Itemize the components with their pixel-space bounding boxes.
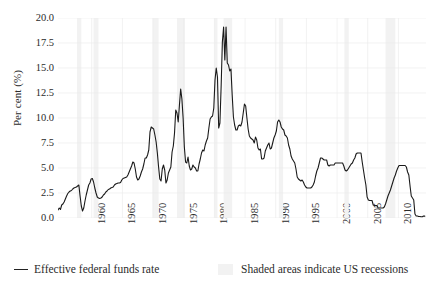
y-tick-label: 20.0 xyxy=(36,13,54,23)
chart-figure: Per cent (%) 0.02.55.07.510.012.515.017.… xyxy=(0,0,441,290)
y-tick-label: 5.0 xyxy=(41,163,54,173)
legend-series-label: Effective federal funds rate xyxy=(34,263,159,275)
y-tick-label: 2.5 xyxy=(41,188,54,198)
line-chart-svg xyxy=(58,18,426,218)
legend-entry-recessions: Shaded areas indicate US recessions xyxy=(218,263,408,275)
chart-legend: Effective federal funds rate Shaded area… xyxy=(0,263,441,285)
shaded-area-swatch-icon xyxy=(218,264,233,275)
y-tick-label: 17.5 xyxy=(36,38,54,48)
y-tick-label: 15.0 xyxy=(36,63,54,73)
legend-recession-label: Shaded areas indicate US recessions xyxy=(241,263,408,275)
y-tick-label: 10.0 xyxy=(36,113,54,123)
y-tick-label: 7.5 xyxy=(41,138,54,148)
fed-funds-rate-line xyxy=(58,27,425,217)
y-axis-tick-labels: 0.02.55.07.510.012.515.017.520.0 xyxy=(22,0,54,290)
line-swatch-icon xyxy=(14,269,28,270)
y-tick-label: 0.0 xyxy=(41,213,54,223)
plot-area xyxy=(58,18,426,218)
y-tick-label: 12.5 xyxy=(36,88,54,98)
legend-entry-series: Effective federal funds rate xyxy=(14,263,159,275)
